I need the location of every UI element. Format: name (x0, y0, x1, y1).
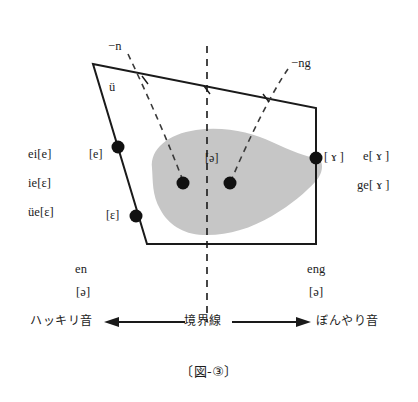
vowel-point-ram-horn (310, 152, 323, 165)
bottom-left-romanization: en (75, 263, 87, 276)
vowel-point-schwa-left (177, 177, 190, 190)
vertex-label-e: [e] (89, 148, 103, 161)
vowel-point-e (112, 141, 125, 154)
coda-ng-label: −ng (291, 57, 311, 70)
vertex-label-epsilon: [ɛ] (106, 209, 119, 222)
vowel-u-umlaut-label: ü (109, 81, 115, 94)
left-axis-label: ハッキリ音 (30, 315, 93, 328)
bottom-right-romanization: eng (307, 263, 325, 276)
figure-caption: 〔図-③〕 (0, 361, 418, 380)
right-column-item-1: ge[ ɤ ] (357, 179, 390, 192)
vowel-point-schwa-right (224, 177, 237, 190)
vertex-label-ram-horn: [ ɤ ] (324, 151, 344, 164)
vowel-point-epsilon (130, 210, 143, 223)
right-axis-label: ぼんやり音 (316, 315, 379, 328)
bottom-left-ipa: [ə] (76, 286, 90, 299)
boundary-line-label: 境界線 (184, 315, 222, 328)
left-column-item-0: ei[e] (28, 148, 51, 161)
figure-3-diagram: −n −ng ü [e] [ɛ] [ə] [ ɤ ] ei[e] ie[ɛ] ü… (0, 0, 418, 402)
right-column-item-0: e[ ɤ ] (363, 150, 389, 163)
coda-n-label: −n (108, 40, 122, 53)
bottom-right-ipa: [ə] (309, 286, 323, 299)
tick-mark-n (142, 76, 148, 84)
left-column-item-1: ie[ɛ] (28, 177, 51, 190)
vertex-label-schwa: [ə] (205, 152, 219, 165)
left-column-item-2: üe[ɛ] (28, 206, 54, 219)
vowel-quadrilateral-svg (0, 0, 418, 402)
